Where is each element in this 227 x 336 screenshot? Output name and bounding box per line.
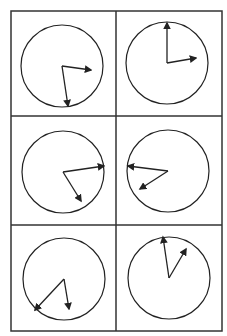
clock-5 [23,238,105,320]
minute-hand-arrow [128,166,168,171]
hour-hand-arrow [64,279,69,309]
minute-hand-arrow [35,279,64,310]
minute-hand-arrow [62,66,68,106]
minute-hand-arrow [163,237,169,278]
clock-1 [21,25,103,107]
clock-4 [127,130,209,212]
hour-hand-arrow [167,58,196,63]
clock-2 [126,22,208,104]
hour-hand-arrow [63,172,81,201]
clock-3 [22,131,104,213]
hour-hand-arrow [169,249,186,278]
clock-grid-diagram [0,0,227,336]
clock-6 [128,237,210,319]
hour-hand-arrow [140,171,168,189]
minute-hand-arrow [63,166,104,172]
hour-hand-arrow [62,66,91,70]
